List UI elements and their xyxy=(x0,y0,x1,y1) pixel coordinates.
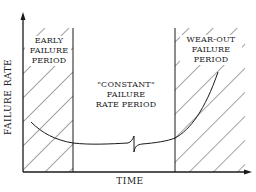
x-axis-arrow-icon xyxy=(244,170,252,175)
constant-failure-label: "CONSTANT" FAILURE RATE PERIOD xyxy=(84,80,168,110)
early-failure-label: EARLY FAILURE PERIOD xyxy=(24,36,74,66)
y-axis-arrow-icon xyxy=(21,12,26,20)
y-axis-label: FAILURE RATE xyxy=(3,57,13,137)
wear-out-failure-label: WEAR-OUT FAILURE PERIOD xyxy=(181,35,241,65)
bathtub-curve-diagram: FAILURE RATE TIME EARLY FAILURE PERIOD "… xyxy=(0,0,256,192)
x-axis-label: TIME xyxy=(100,176,160,186)
